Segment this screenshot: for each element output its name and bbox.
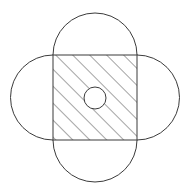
center-circle <box>84 87 106 109</box>
figure-root: Hatched square with four semicircular lo… <box>0 0 187 192</box>
geometric-figure-svg: Hatched square with four semicircular lo… <box>0 0 187 192</box>
